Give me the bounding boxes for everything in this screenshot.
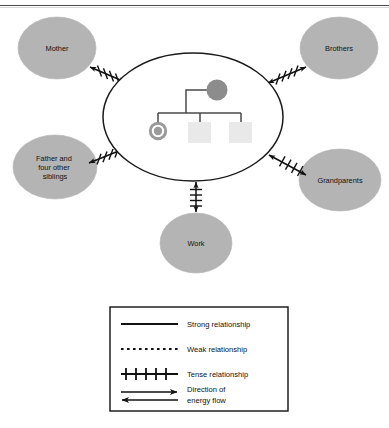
genogram-square-child-3: [229, 122, 252, 143]
household-group[interactable]: [103, 53, 283, 181]
satellite-node-mother[interactable]: Mother: [18, 17, 96, 79]
genogram-square-child-2: [188, 122, 211, 143]
connector-grandparents[interactable]: [269, 155, 306, 176]
satellite-label: Work: [187, 239, 204, 248]
legend-item-label: Strong relationship: [187, 320, 250, 329]
genogram-double-circle-index-child: [149, 122, 167, 140]
satellite-label: Mother: [45, 44, 69, 53]
satellite-node-brothers[interactable]: Brothers: [300, 17, 378, 79]
genogram-circle-mother: [207, 80, 228, 101]
connector-line: [268, 67, 306, 83]
connector-work[interactable]: [190, 182, 202, 212]
satellite-node-grandparents[interactable]: Grandparents: [299, 149, 381, 211]
legend-box: Strong relationship Weak relationship Te…: [110, 307, 288, 411]
household-ellipse: [103, 53, 283, 181]
satellite-node-father-and-siblings[interactable]: Father and four other siblings: [13, 135, 97, 199]
legend-item-label: Weak relationship: [187, 345, 247, 354]
satellite-label: Brothers: [325, 44, 353, 53]
legend-item-label: Tense relationship: [187, 370, 248, 379]
ecomap-figure: Mother Brothers Father and four other si…: [0, 0, 389, 428]
satellite-label: Grandparents: [317, 176, 362, 185]
connector-brothers[interactable]: [268, 66, 306, 85]
satellite-node-work[interactable]: Work: [160, 213, 232, 273]
